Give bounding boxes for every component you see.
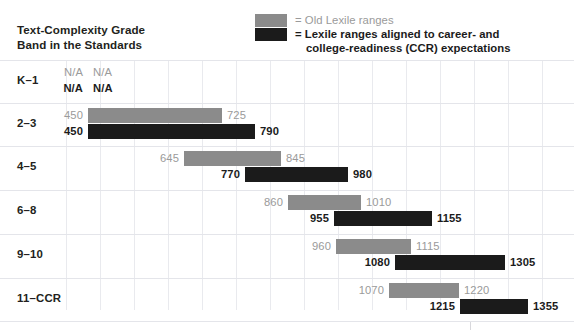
ccr-range-low-label: 1215 bbox=[430, 299, 460, 314]
old-range-line: 9601115 bbox=[0, 239, 574, 255]
legend-label-old: = Old Lexile ranges bbox=[295, 13, 394, 27]
chart-legend: = Old Lexile ranges = Lexile ranges alig… bbox=[255, 13, 565, 55]
old-range-high-label: 1220 bbox=[459, 283, 489, 298]
old-range-line: 645845 bbox=[0, 151, 574, 167]
old-range-low-label: 450 bbox=[64, 108, 88, 123]
old-range-high-label: 725 bbox=[222, 108, 246, 123]
ccr-range-low-label: 770 bbox=[221, 167, 245, 182]
ccr-range-bar bbox=[88, 124, 255, 139]
chart-header-title: Text-Complexity Grade Band in the Standa… bbox=[17, 22, 217, 52]
ccr-range-line: 450790 bbox=[0, 124, 574, 140]
ccr-range-high-label: 1305 bbox=[505, 255, 535, 270]
ccr-range-bar bbox=[460, 299, 528, 314]
old-range-bar bbox=[288, 195, 361, 210]
old-range-low-label: 960 bbox=[312, 239, 336, 254]
old-range-high-label: N/A bbox=[88, 65, 112, 80]
old-range-low-label: 645 bbox=[160, 151, 184, 166]
ccr-range-low-label: 450 bbox=[64, 124, 88, 139]
grade-band-row: 4–5645845770980 bbox=[0, 146, 574, 190]
legend-label-ccr-line1: = Lexile ranges aligned to career- and bbox=[295, 28, 499, 40]
ccr-range-low-label: N/A bbox=[63, 81, 88, 96]
header-title-line2: Band in the Standards bbox=[17, 38, 142, 51]
old-range-bar bbox=[336, 239, 411, 254]
ccr-range-line: 10801305 bbox=[0, 255, 574, 271]
old-range-low-label: 1070 bbox=[359, 283, 389, 298]
legend-item-ccr: = Lexile ranges aligned to career- and c… bbox=[255, 27, 565, 55]
ccr-range-high-label: 1155 bbox=[432, 211, 462, 226]
grade-band-row: 9–10960111510801305 bbox=[0, 234, 574, 278]
ccr-range-high-label: 1355 bbox=[528, 299, 558, 314]
old-range-line: 10701220 bbox=[0, 283, 574, 299]
grade-band-row: 11–CCR1070122012151355 bbox=[0, 278, 574, 322]
old-range-bar bbox=[88, 108, 222, 123]
old-range-high-label: 845 bbox=[281, 151, 305, 166]
legend-item-old: = Old Lexile ranges bbox=[255, 13, 565, 27]
ccr-range-high-label: 790 bbox=[255, 124, 279, 139]
old-range-line: 8601010 bbox=[0, 195, 574, 211]
ccr-range-high-label: N/A bbox=[88, 81, 113, 96]
lexile-range-chart: Text-Complexity Grade Band in the Standa… bbox=[0, 0, 574, 332]
legend-label-ccr: = Lexile ranges aligned to career- and c… bbox=[295, 27, 511, 55]
old-range-bar bbox=[184, 151, 281, 166]
bottom-tick-mark bbox=[470, 322, 471, 330]
ccr-range-bar bbox=[245, 167, 348, 182]
old-range-high-label: 1010 bbox=[361, 195, 391, 210]
legend-swatch-old-icon bbox=[255, 14, 287, 27]
old-range-high-label: 1115 bbox=[411, 239, 440, 254]
ccr-range-bar bbox=[334, 211, 432, 226]
old-range-line: 450725 bbox=[0, 108, 574, 124]
grade-band-row: K–1N/AN/AN/AN/A bbox=[0, 60, 574, 104]
old-range-bar bbox=[389, 283, 459, 298]
old-range-low-label: N/A bbox=[64, 65, 88, 80]
ccr-range-low-label: 1080 bbox=[365, 255, 395, 270]
ccr-range-high-label: 980 bbox=[348, 167, 372, 182]
header-title-line1: Text-Complexity Grade bbox=[17, 23, 145, 36]
ccr-range-line: 770980 bbox=[0, 167, 574, 183]
grade-band-row: 2–3450725450790 bbox=[0, 103, 574, 147]
ccr-range-line: N/AN/A bbox=[0, 81, 574, 97]
ccr-range-bar bbox=[395, 255, 505, 270]
old-range-low-label: 860 bbox=[264, 195, 288, 210]
old-range-line: N/AN/A bbox=[0, 65, 574, 81]
ccr-range-low-label: 955 bbox=[310, 211, 334, 226]
grade-band-row: 6–886010109551155 bbox=[0, 190, 574, 234]
legend-label-ccr-line2: college-readiness (CCR) expectations bbox=[306, 41, 511, 55]
ccr-range-line: 12151355 bbox=[0, 299, 574, 315]
legend-swatch-ccr-icon bbox=[255, 28, 287, 41]
ccr-range-line: 9551155 bbox=[0, 211, 574, 227]
